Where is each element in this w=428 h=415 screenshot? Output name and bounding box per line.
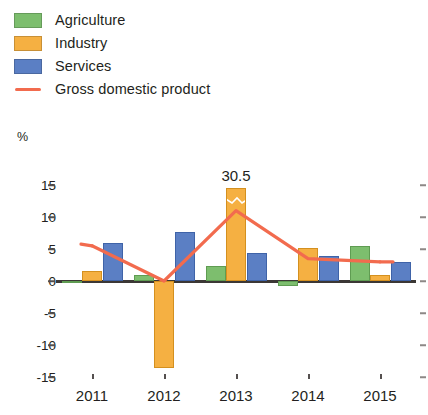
x-axis-tick-mark	[380, 374, 382, 379]
x-axis-tick-label: 2015	[363, 387, 396, 404]
gdp-line-path	[92, 211, 380, 281]
x-axis-tick-mark	[236, 374, 238, 379]
legend-item-gross-domestic-product: Gross domestic product	[14, 79, 210, 99]
x-axis-tick-mark	[308, 374, 310, 379]
chart-plot-area: % 151050-5-10-15 30.5 201120122013201420…	[0, 130, 428, 415]
x-axis-tick-mark	[92, 374, 94, 379]
y-axis-tick-mark	[48, 376, 55, 378]
y-axis-tick-mark	[48, 280, 55, 282]
y-axis-right-tick-mark	[420, 184, 426, 186]
y-axis-tick-mark	[48, 184, 55, 186]
gdp-line-series	[56, 130, 416, 415]
legend-item-label: Services	[55, 58, 111, 74]
x-axis-tick-label: 2014	[291, 387, 324, 404]
chart-legend: Agriculture Industry Services Gross dome…	[14, 10, 210, 99]
y-axis-right-tick-mark	[420, 248, 426, 250]
color-swatch-icon	[14, 36, 42, 51]
x-axis-tick-label: 2013	[219, 387, 252, 404]
legend-item-services: Services	[14, 56, 210, 76]
y-axis-tick-mark	[48, 312, 55, 314]
y-axis-unit-label: %	[17, 130, 28, 144]
legend-item-label: Industry	[55, 35, 107, 51]
gdp-line-start-stub	[81, 244, 92, 246]
legend-item-label: Gross domestic product	[55, 81, 210, 97]
y-axis-tick-mark	[48, 248, 55, 250]
y-axis-right-tick-mark	[420, 216, 426, 218]
x-axis-tick-label: 2012	[147, 387, 180, 404]
line-marker-icon	[14, 82, 42, 97]
legend-item-agriculture: Agriculture	[14, 10, 210, 30]
y-axis-tick-mark	[48, 216, 55, 218]
y-axis-right-tick-mark	[420, 312, 426, 314]
y-axis-right-tick-mark	[420, 376, 426, 378]
x-axis-tick-mark	[164, 374, 166, 379]
y-axis-tick-mark	[48, 344, 55, 346]
x-axis-tick-label: 2011	[76, 387, 108, 404]
color-swatch-icon	[14, 59, 42, 74]
legend-item-label: Agriculture	[55, 12, 125, 28]
y-axis-right-tick-mark	[420, 344, 426, 346]
y-axis-right-tick-mark	[420, 280, 426, 282]
color-swatch-icon	[14, 13, 42, 28]
legend-item-industry: Industry	[14, 33, 210, 53]
